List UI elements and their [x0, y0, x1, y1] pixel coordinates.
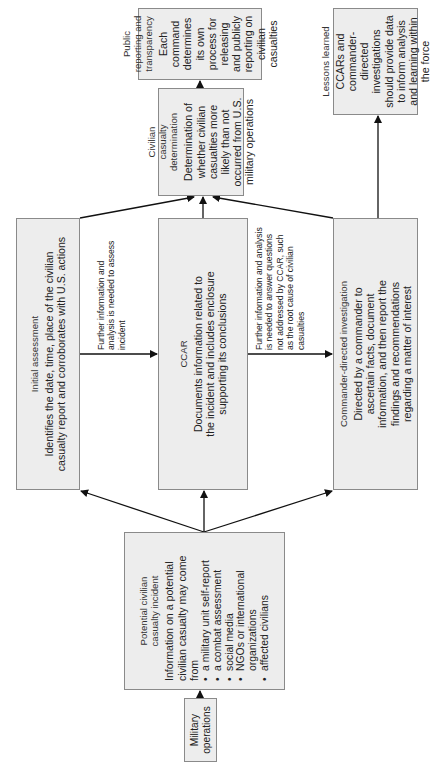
node-lessons-learned: Lessons learned CCARs and commander-dire…	[333, 8, 418, 115]
source-item: NGOs or international organizations	[235, 537, 259, 671]
node-ccar: CCAR Documents information related to th…	[158, 218, 248, 490]
node-title: Potential civilian casualty incident	[138, 537, 160, 685]
arrow-potential-to-initial	[81, 491, 204, 532]
node-title: CCAR	[178, 340, 189, 367]
node-body: Documents information related to the inc…	[192, 271, 229, 437]
arrow-initial-to-determination	[80, 197, 194, 218]
node-initial-assessment: Initial assessment Identifies the date, …	[16, 218, 80, 490]
source-list: a military unit self-report a combat ass…	[200, 537, 271, 685]
node-title: Commander-directed investigation	[338, 281, 349, 427]
node-title: Initial assessment	[29, 316, 40, 392]
arrow-potential-to-commander	[204, 491, 332, 532]
edge-label-initial-to-ccar: Further information and analysis is need…	[96, 238, 127, 350]
node-military-operations: Military operations	[184, 698, 217, 762]
node-commander-investigation: Commander-directed investigation Directe…	[333, 218, 418, 490]
source-item: affected civilians	[259, 537, 271, 671]
flowchart-diagram: Military operations Potential civilian c…	[0, 0, 431, 766]
node-body: Information on a potential civilian casu…	[163, 537, 200, 685]
source-item: a combat assessment	[212, 537, 224, 671]
node-body: Directed by a commander to ascertain fac…	[352, 267, 413, 441]
node-title: Public reporting and transparency	[121, 13, 154, 75]
edge-label-ccar-to-commander: Further information and analysis is need…	[254, 226, 306, 350]
node-body: CCARs and commander-directed investigati…	[334, 13, 431, 110]
node-title: Military operations	[189, 705, 212, 755]
arrow-commander-to-determination	[213, 197, 333, 218]
node-body: Each command determines its own process …	[157, 13, 279, 75]
node-determination: Civilian casualty determination Determin…	[158, 88, 244, 196]
source-item: social media	[224, 537, 236, 671]
node-title: Lessons learned	[320, 26, 331, 96]
node-body: Identifies the date, time, place of the …	[43, 223, 67, 485]
source-item: a military unit self-report	[200, 537, 212, 671]
node-title: Civilian casualty determination	[146, 93, 179, 191]
node-public-reporting: Public reporting and transparency Each c…	[138, 8, 262, 80]
node-potential-incident: Potential civilian casualty incident Inf…	[124, 532, 285, 690]
node-body: Determination of whether civilian casual…	[182, 93, 255, 191]
